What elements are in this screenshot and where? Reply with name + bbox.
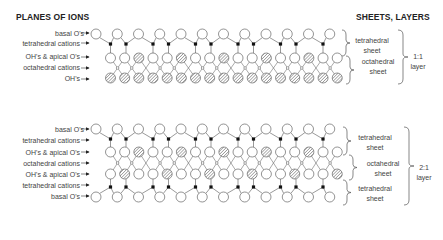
one-to-one-layer-structure [91, 29, 342, 83]
hydroxyl [247, 73, 257, 83]
curly-brace [349, 155, 357, 180]
tetrahedral-cation [321, 185, 324, 188]
basal-oxygen [91, 29, 101, 39]
apical-oxygen [304, 169, 314, 179]
octahedral-cation [258, 162, 261, 165]
tetrahedral-cation [279, 42, 282, 45]
basal-oxygen [325, 124, 335, 134]
octahedral-cation [244, 67, 247, 70]
basal-oxygen [304, 124, 314, 134]
tetrahedral-cation [124, 185, 127, 188]
octahedral-cation [258, 67, 261, 70]
basal-oxygen [282, 29, 292, 39]
basal-oxygen [155, 192, 165, 202]
tetrahedral-cation [109, 185, 112, 188]
octahedral-cation [215, 67, 218, 70]
sheet-layer-braces [342, 30, 414, 205]
hydroxyl [176, 73, 186, 83]
tetrahedral-cation [109, 42, 112, 45]
apical-oxygen [290, 53, 300, 63]
octahedral-cation [159, 162, 162, 165]
apical-oxygen [176, 169, 186, 179]
basal-oxygen [261, 192, 271, 202]
hydroxyl [176, 53, 186, 63]
basal-oxygen [282, 124, 292, 134]
plane-pointer-arrows [81, 33, 89, 196]
octahedral-cation [130, 67, 133, 70]
apical-oxygen [148, 147, 158, 157]
hydroxyl [247, 169, 257, 179]
octahedral-cation [173, 67, 176, 70]
hydroxyl [304, 147, 314, 157]
apical-oxygen [261, 169, 271, 179]
tetrahedral-cation [236, 137, 239, 140]
apical-oxygen [233, 53, 243, 63]
tetrahedral-cation [167, 185, 170, 188]
basal-oxygen [282, 192, 292, 202]
hydroxyl [205, 169, 215, 179]
tetrahedral-cation [252, 137, 255, 140]
tetrahedral-cation [252, 42, 255, 45]
basal-oxygen [219, 192, 229, 202]
apical-oxygen [205, 147, 215, 157]
basal-oxygen [240, 29, 250, 39]
apical-oxygen [106, 169, 116, 179]
hydroxyl [261, 73, 271, 83]
basal-oxygen [261, 124, 271, 134]
apical-oxygen [134, 169, 144, 179]
hydroxyl [261, 147, 271, 157]
hydroxyl [191, 73, 201, 83]
tetrahedral-cation [194, 42, 197, 45]
apical-oxygen [148, 53, 158, 63]
apical-oxygen [120, 53, 130, 63]
octahedral-cation [130, 162, 133, 165]
apical-oxygen [205, 53, 215, 63]
tetrahedral-cation [167, 42, 170, 45]
hydroxyl [205, 73, 215, 83]
apical-oxygen [191, 169, 201, 179]
apical-oxygen [247, 53, 257, 63]
basal-oxygen [176, 29, 186, 39]
basal-oxygen [261, 29, 271, 39]
apical-oxygen [162, 147, 172, 157]
tetrahedral-cation [236, 42, 239, 45]
apical-oxygen [191, 53, 201, 63]
apical-oxygen [106, 147, 116, 157]
octahedral-cation [286, 67, 289, 70]
octahedral-cation [215, 162, 218, 165]
apical-oxygen [276, 169, 286, 179]
tetrahedral-cation [194, 185, 197, 188]
two-to-one-layer-structure [91, 124, 342, 202]
tetrahedral-cation [294, 42, 297, 45]
tetrahedral-cation [209, 42, 212, 45]
hydroxyl [120, 169, 130, 179]
basal-oxygen [325, 192, 335, 202]
basal-oxygen [134, 29, 144, 39]
apical-oxygen [120, 147, 130, 157]
tetrahedral-cation [279, 137, 282, 140]
hydroxyl [332, 73, 342, 83]
hydroxyl [134, 53, 144, 63]
octahedral-cation [201, 67, 204, 70]
hydroxyl [233, 73, 243, 83]
basal-oxygen [112, 124, 122, 134]
tetrahedral-cation [321, 42, 324, 45]
basal-oxygen [219, 124, 229, 134]
octahedral-cation [201, 162, 204, 165]
tetrahedral-cation [294, 137, 297, 140]
hydroxyl [134, 73, 144, 83]
apical-oxygen [191, 147, 201, 157]
basal-oxygen [134, 192, 144, 202]
basal-oxygen [155, 29, 165, 39]
hydroxyl [106, 73, 116, 83]
apical-oxygen [318, 169, 328, 179]
apical-oxygen [106, 53, 116, 63]
octahedral-cation [116, 67, 119, 70]
tetrahedral-cation [124, 42, 127, 45]
apical-oxygen [318, 53, 328, 63]
apical-oxygen [276, 53, 286, 63]
basal-oxygen [197, 29, 207, 39]
curly-brace [342, 30, 350, 56]
hydroxyl [162, 73, 172, 83]
basal-oxygen [176, 124, 186, 134]
